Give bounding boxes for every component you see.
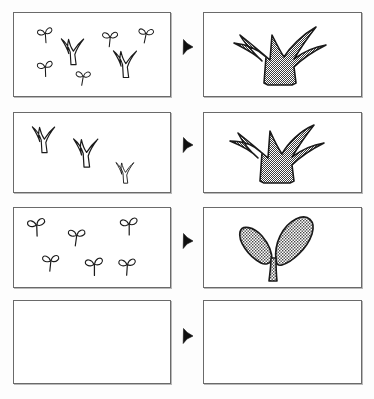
- grass-tuft-shape: [234, 27, 326, 85]
- specimen-group-1: [14, 13, 170, 96]
- arrow-1: [181, 38, 195, 56]
- arrow-right-icon: [183, 138, 193, 153]
- observation-panel-1[interactable]: [13, 12, 171, 97]
- result-panel-2[interactable]: [203, 112, 362, 193]
- result-panel-1[interactable]: [203, 12, 362, 97]
- representative-plant-2: [204, 113, 361, 192]
- specimen-seedling: [75, 70, 91, 86]
- stem-shape: [269, 258, 277, 281]
- specimen-grass: [61, 39, 83, 65]
- observation-panel-3[interactable]: [13, 207, 171, 288]
- grass-tuft-shape: [230, 125, 324, 183]
- arrow-4: [181, 327, 195, 345]
- specimen-grass: [116, 162, 134, 183]
- observation-panel-4[interactable]: [13, 300, 171, 384]
- observation-panel-2[interactable]: [13, 112, 171, 193]
- result-panel-4[interactable]: [203, 300, 362, 384]
- cotyledon-left-shape: [240, 227, 272, 264]
- specimen-grass: [74, 139, 98, 167]
- specimen-grass: [32, 127, 54, 153]
- representative-plant-3: [204, 208, 361, 287]
- specimen-seedling: [37, 28, 53, 44]
- specimen-seedling: [85, 258, 103, 276]
- representative-plant-4: [204, 301, 361, 383]
- arrow-right-icon: [183, 329, 193, 344]
- specimen-seedling: [37, 61, 53, 77]
- arrow-2: [181, 136, 195, 154]
- specimen-grass: [113, 51, 136, 78]
- specimen-group-3: [14, 208, 170, 287]
- arrow-right-icon: [183, 40, 193, 55]
- specimen-seedling: [67, 229, 85, 247]
- figure-canvas: [0, 0, 374, 399]
- specimen-group-4: [14, 301, 170, 383]
- cotyledon-right-shape: [276, 217, 313, 265]
- specimen-seedling: [27, 218, 45, 236]
- result-panel-3[interactable]: [203, 207, 362, 288]
- arrow-right-icon: [183, 234, 193, 249]
- representative-plant-1: [204, 13, 361, 96]
- specimen-seedling: [120, 218, 137, 235]
- specimen-seedling: [102, 31, 118, 47]
- specimen-seedling: [137, 27, 154, 44]
- specimen-seedling: [118, 259, 135, 276]
- arrow-3: [181, 232, 195, 250]
- specimen-group-2: [14, 113, 170, 192]
- specimen-seedling: [42, 255, 59, 272]
